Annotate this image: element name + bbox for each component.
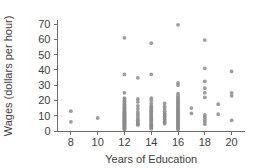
scatter-plot-canvas: 0102030405060708101214161820Years of Edu…	[0, 0, 254, 168]
y-tick-label-70: 70	[38, 18, 50, 30]
data-point	[190, 112, 194, 116]
data-point	[230, 94, 234, 98]
y-tick-label-30: 30	[38, 79, 50, 91]
y-tick-label-20: 20	[38, 94, 50, 106]
data-point	[123, 36, 127, 40]
x-axis-title: Years of Education	[105, 153, 197, 165]
data-point	[203, 86, 207, 90]
data-point	[216, 112, 220, 116]
y-tick-label-50: 50	[38, 49, 50, 61]
data-point	[203, 66, 207, 70]
data-point	[203, 38, 207, 42]
data-point	[163, 122, 167, 126]
data-point	[230, 118, 234, 122]
x-tick-label-8: 8	[68, 136, 74, 148]
axes-group	[54, 20, 246, 135]
data-point	[230, 70, 234, 74]
data-point	[69, 109, 73, 113]
data-point	[96, 116, 100, 120]
x-tick-label-16: 16	[172, 136, 184, 148]
scatter-plot-figure: 0102030405060708101214161820Years of Edu…	[0, 0, 254, 168]
x-tick-label-18: 18	[199, 136, 211, 148]
data-point	[69, 120, 73, 124]
data-point	[149, 127, 153, 131]
x-tick-label-10: 10	[92, 136, 104, 148]
data-point	[216, 102, 220, 106]
y-tick-label-0: 0	[44, 125, 50, 137]
data-point	[136, 123, 140, 127]
y-axis-title: Wages (dollars per hour)	[2, 16, 14, 137]
data-point	[203, 95, 207, 99]
data-point	[123, 91, 127, 95]
data-point	[203, 122, 207, 126]
x-tick-label-12: 12	[118, 136, 130, 148]
data-point	[203, 79, 207, 83]
x-tick-label-20: 20	[225, 136, 237, 148]
x-tick-label-14: 14	[145, 136, 157, 148]
data-point	[136, 100, 140, 104]
data-point	[149, 73, 153, 77]
data-point	[176, 83, 180, 87]
data-point	[123, 128, 127, 132]
data-point	[190, 106, 194, 110]
data-point	[123, 73, 127, 77]
y-tick-label-10: 10	[38, 110, 50, 122]
axis-labels-group: 0102030405060708101214161820Years of Edu…	[2, 16, 238, 165]
y-tick-label-40: 40	[38, 64, 50, 76]
data-point	[203, 91, 207, 95]
data-point	[176, 23, 180, 27]
data-points-group	[69, 23, 234, 131]
data-point	[149, 41, 153, 45]
data-point	[136, 76, 140, 80]
data-point	[176, 128, 180, 132]
y-tick-label-60: 60	[38, 33, 50, 45]
